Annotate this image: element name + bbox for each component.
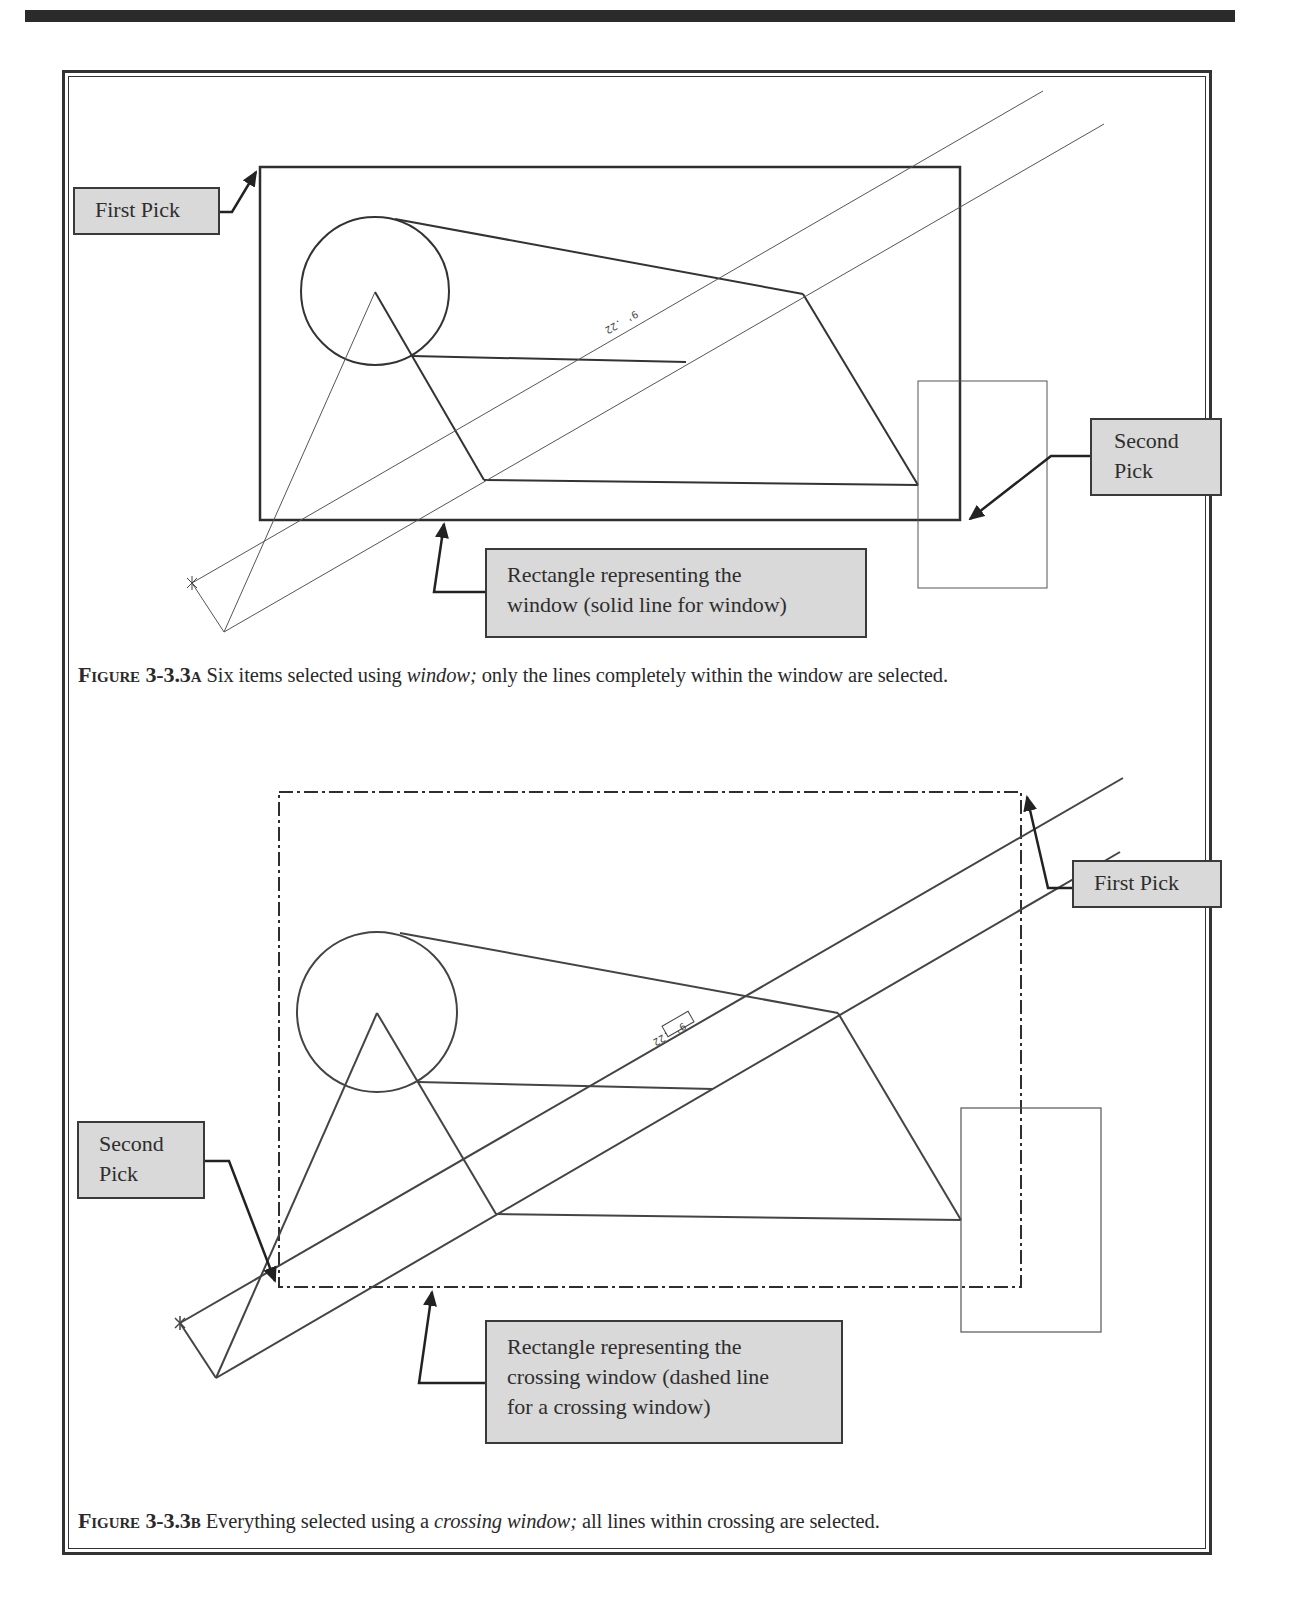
crossing-rect-leader: [419, 1292, 485, 1383]
callout-text-line1: Rectangle representing the: [507, 1332, 821, 1362]
circle: [297, 932, 457, 1092]
figure-caption-a: Figure 3-3.3a Six items selected using w…: [78, 662, 948, 688]
circle: [301, 217, 449, 365]
callout-text-line2: Pick: [99, 1159, 183, 1189]
first-pick-leader: [219, 172, 256, 212]
callout-text: First Pick: [1094, 870, 1179, 895]
window-rect-leader: [434, 524, 485, 592]
callout-first-pick-a: First Pick: [73, 187, 220, 235]
callout-text-line2: Pick: [1114, 456, 1198, 486]
figure-number: Figure 3-3.3b: [78, 1508, 201, 1533]
callout-text: First Pick: [95, 197, 180, 222]
caption-emphasis: crossing window;: [434, 1510, 577, 1532]
callout-first-pick-b: First Pick: [1072, 860, 1222, 908]
caption-emphasis: window;: [407, 664, 477, 686]
callout-window-rect: Rectangle representing the window (solid…: [485, 548, 867, 638]
callout-text-line1: Second: [1114, 426, 1198, 456]
figure-caption-b: Figure 3-3.3b Everything selected using …: [78, 1508, 880, 1534]
callout-second-pick-a: Second Pick: [1090, 418, 1222, 496]
figure-number: Figure 3-3.3a: [78, 662, 201, 687]
callout-text-line1: Rectangle representing the: [507, 560, 845, 590]
callout-text-line1: Second: [99, 1129, 183, 1159]
object-rect: [961, 1108, 1101, 1332]
caption-text: only the lines completely within the win…: [477, 664, 948, 686]
figure-b-drawing: [175, 778, 1123, 1383]
callout-text-line3: for a crossing window): [507, 1392, 821, 1422]
second-pick-leader: [970, 456, 1090, 519]
caption-text: all lines within crossing are selected.: [577, 1510, 880, 1532]
caption-text: Six items selected using: [201, 664, 406, 686]
caption-text: Everything selected using a: [201, 1510, 434, 1532]
object-rect: [918, 381, 1047, 588]
selection-window-rect: [260, 167, 960, 520]
callout-text-line2: window (solid line for window): [507, 590, 845, 620]
second-pick-leader: [205, 1161, 275, 1281]
callout-second-pick-b: Second Pick: [77, 1121, 205, 1199]
crossing-window-rect: [279, 792, 1021, 1287]
callout-crossing-rect: Rectangle representing the crossing wind…: [485, 1320, 843, 1444]
callout-text-line2: crossing window (dashed line: [507, 1362, 821, 1392]
